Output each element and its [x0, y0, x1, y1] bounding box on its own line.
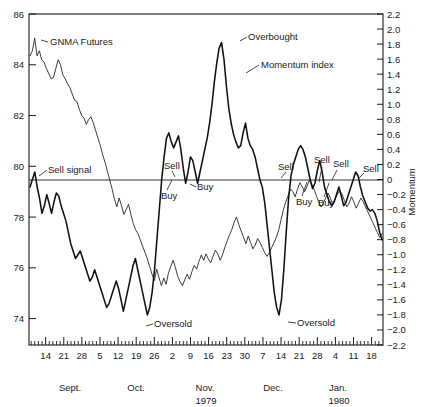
momentum-index-leader: [246, 65, 259, 73]
right-tick-label: −0.2: [387, 189, 406, 200]
right-tick-label: 0.8: [387, 114, 400, 125]
buy-label-3: Buy: [296, 196, 313, 207]
buy-label-1: Buy: [161, 190, 178, 201]
x-tick-label: 26: [149, 350, 160, 361]
gnma-futures-leader: [41, 40, 48, 42]
x-tick-label: 23: [221, 350, 232, 361]
right-axis-title: Momentum: [406, 168, 417, 216]
month-label-oct: Oct.: [127, 382, 144, 393]
right-tick-label: −1.2: [387, 264, 406, 275]
oversold-leader-1: [146, 324, 153, 326]
x-tick-label: 30: [240, 350, 251, 361]
right-axis-ticks: [377, 14, 383, 345]
left-axis-labels: 86848280787674: [13, 9, 24, 325]
x-tick-label: 14: [40, 350, 51, 361]
buy-leader-2: [190, 184, 196, 187]
year-label-1979: 1979: [195, 395, 216, 406]
left-tick-label: 76: [13, 262, 24, 273]
x-tick-label: 12: [113, 350, 124, 361]
momentum-chart: 86848280787674 2.22.01.81.61.41.21.00.80…: [0, 0, 432, 407]
left-tick-label: 84: [13, 59, 24, 70]
right-tick-label: 1.4: [387, 69, 400, 80]
overbought-label: Overbought: [248, 31, 298, 42]
sell-label-5: Sell: [363, 163, 379, 174]
right-tick-label: 2.0: [387, 24, 400, 35]
x-tick-label: 14: [276, 350, 287, 361]
buy-leader-1: [167, 180, 172, 190]
right-tick-label: 0.4: [387, 144, 400, 155]
x-tick-label: 11: [349, 350, 359, 361]
right-tick-label: 0: [387, 174, 392, 185]
x-axis-ticks: [31, 337, 379, 345]
right-tick-label: 2.2: [387, 9, 400, 20]
x-tick-label: 28: [312, 350, 323, 361]
x-tick-label: 16: [203, 350, 214, 361]
x-tick-label: 4: [333, 350, 338, 361]
right-tick-label: 0.6: [387, 129, 400, 140]
left-axis-ticks: [29, 14, 36, 319]
sell-label-3: Sell: [314, 154, 330, 165]
right-tick-label: 1.0: [387, 99, 400, 110]
right-tick-label: −0.4: [387, 204, 406, 215]
x-tick-label: 18: [366, 350, 377, 361]
right-tick-label: −1.8: [387, 309, 406, 320]
right-tick-label: −1.0: [387, 249, 406, 260]
left-tick-label: 74: [13, 313, 24, 324]
x-tick-label: 5: [97, 350, 102, 361]
left-tick-label: 80: [13, 161, 24, 172]
month-label-sept: Sept.: [59, 382, 81, 393]
x-tick-label: 21: [58, 350, 69, 361]
overbought-leader: [240, 37, 247, 41]
sell-label-1: Sell: [164, 160, 180, 171]
buy-label-2: Buy: [197, 181, 214, 192]
right-axis-labels: 2.22.01.81.61.41.21.00.80.60.40.20−0.2−0…: [387, 9, 406, 351]
oversold-leader-2: [288, 322, 296, 323]
gnma-futures-label: GNMA Futures: [50, 36, 113, 47]
month-label-dec: Dec.: [263, 382, 283, 393]
right-tick-label: −0.6: [387, 219, 406, 230]
series-momentum-index: [30, 43, 382, 315]
month-label-jan: Jan.: [329, 382, 347, 393]
x-tick-label: 21: [294, 350, 305, 361]
x-tick-label: 28: [77, 350, 88, 361]
right-tick-label: −2.2: [387, 340, 406, 351]
right-tick-label: −1.4: [387, 279, 406, 290]
right-tick-label: −1.6: [387, 294, 406, 305]
sell-label-2: Sell: [278, 161, 294, 172]
x-tick-label: 7: [260, 350, 265, 361]
sell-leader-4: [332, 170, 337, 180]
buy-label-4: Buy: [318, 197, 335, 208]
x-tick-label: 9: [188, 350, 193, 361]
right-tick-label: −2.0: [387, 324, 406, 335]
x-tick-label: 2: [170, 350, 175, 361]
sell-signal-label: Sell signal: [48, 164, 91, 175]
left-tick-label: 78: [13, 212, 24, 223]
oversold-label-1: Oversold: [154, 318, 192, 329]
oversold-label-2: Oversold: [297, 317, 335, 328]
x-tick-label: 19: [131, 350, 142, 361]
left-tick-label: 82: [13, 110, 24, 121]
right-tick-label: 0.2: [387, 159, 400, 170]
chart-container: 86848280787674 2.22.01.81.61.41.21.00.80…: [0, 0, 432, 407]
x-axis-labels: 142128512192629162330714212841118: [40, 350, 377, 361]
year-label-1980: 1980: [328, 395, 349, 406]
sell-signal-leader: [39, 170, 47, 176]
right-tick-label: 1.2: [387, 84, 400, 95]
month-label-nov: Nov.: [196, 382, 215, 393]
momentum-index-label: Momentum index: [261, 59, 334, 70]
sell-leader-1: [172, 171, 175, 177]
left-tick-label: 86: [13, 9, 24, 20]
right-tick-label: 1.6: [387, 54, 400, 65]
sell-leader-2: [281, 172, 286, 178]
right-tick-label: −0.8: [387, 234, 406, 245]
sell-label-4: Sell: [333, 158, 349, 169]
right-tick-label: 1.8: [387, 39, 400, 50]
